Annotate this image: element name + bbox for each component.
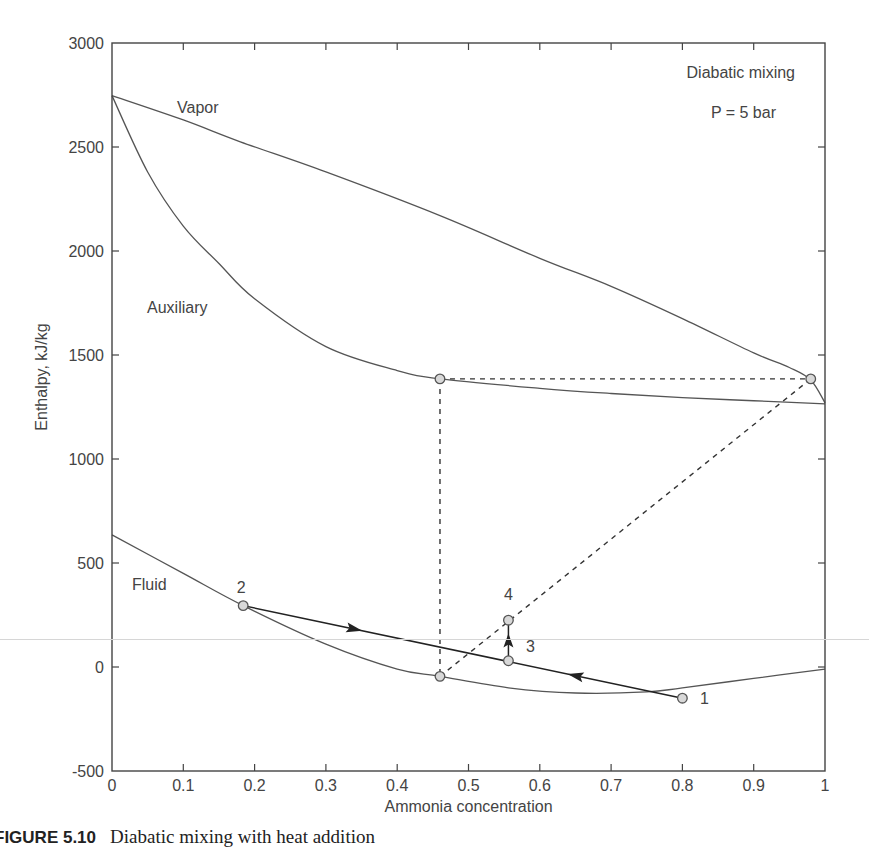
point-label-1: 1 [700, 690, 709, 707]
figure-caption: FIGURE 5.10Diabatic mixing with heat add… [0, 826, 375, 848]
point-label-4: 4 [504, 586, 513, 603]
axes-frame [112, 43, 825, 771]
labels: 00.10.20.30.40.50.60.70.80.91-5000500100… [33, 35, 830, 815]
y-tick-label: 0 [95, 659, 104, 676]
state-point-2 [238, 601, 248, 611]
x-tick-label: 0.7 [600, 777, 622, 794]
curve-auxiliary [112, 96, 825, 404]
scan-artifact-line [0, 639, 869, 640]
point-label-3: 3 [526, 638, 535, 655]
y-axis-title: Enthalpy, kJ/kg [33, 323, 50, 430]
y-tick-label: 2000 [68, 243, 104, 260]
y-tick-label: -500 [72, 763, 104, 780]
state-point-1 [678, 693, 688, 703]
label-auxiliary: Auxiliary [147, 299, 207, 316]
caption-text: Diabatic mixing with heat addition [110, 826, 375, 847]
curve-vapor [112, 96, 825, 403]
x-tick-label: 0.3 [315, 777, 337, 794]
construction-point [435, 374, 445, 384]
y-tick-label: 3000 [68, 35, 104, 52]
label-vapor: Vapor [177, 99, 219, 116]
axes [112, 43, 825, 771]
x-tick-label: 0.6 [529, 777, 551, 794]
label-fluid: Fluid [132, 576, 167, 593]
chart-title: Diabatic mixing [687, 64, 795, 81]
plot-area [112, 96, 825, 703]
state-point-4 [504, 615, 514, 625]
y-tick-label: 1000 [68, 451, 104, 468]
x-tick-label: 0.4 [386, 777, 408, 794]
caption-label: FIGURE 5.10 [0, 828, 96, 847]
y-tick-label: 2500 [68, 139, 104, 156]
x-tick-label: 0.9 [743, 777, 765, 794]
y-tick-label: 1500 [68, 347, 104, 364]
enthalpy-concentration-chart: 00.10.20.30.40.50.60.70.80.91-5000500100… [0, 0, 869, 849]
x-tick-label: 0 [108, 777, 117, 794]
construction-point [806, 374, 816, 384]
state-point-3 [504, 656, 514, 666]
point-label-2: 2 [237, 579, 246, 596]
process-line-construction-line [440, 379, 811, 676]
process-line-mixing-1-2 [243, 606, 682, 699]
x-axis-title: Ammonia concentration [384, 798, 552, 815]
x-tick-label: 1 [821, 777, 830, 794]
x-tick-label: 0.5 [457, 777, 479, 794]
x-tick-label: 0.2 [243, 777, 265, 794]
x-tick-label: 0.8 [671, 777, 693, 794]
construction-point [435, 672, 445, 682]
x-tick-label: 0.1 [172, 777, 194, 794]
y-tick-label: 500 [77, 555, 104, 572]
chart-subtitle: P = 5 bar [711, 104, 777, 121]
curve-fluid [112, 535, 825, 693]
